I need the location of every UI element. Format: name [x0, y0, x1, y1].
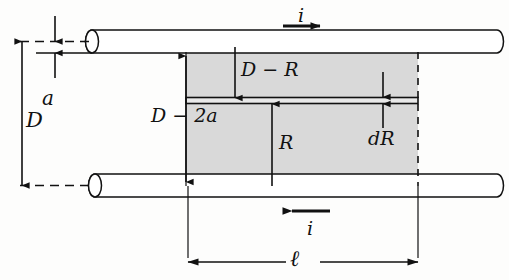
- label-length-ell: ℓ: [290, 248, 299, 270]
- label-distance-from-top: D − R: [241, 60, 299, 79]
- bottom-horizontal-wire: [89, 174, 504, 197]
- label-radius-R: R: [279, 133, 293, 152]
- label-inner-separation: D − 2a: [151, 106, 218, 125]
- dimension-a: [36, 16, 92, 78]
- differential-strip-dR: [186, 98, 418, 104]
- label-separation-D: D: [26, 110, 43, 131]
- label-element-dR: dR: [368, 129, 394, 148]
- wire-pair-inductance-diagram: D a D − 2a D − R R dR i i ℓ: [0, 0, 509, 280]
- top-horizontal-wire: [86, 30, 504, 53]
- label-current-bottom: i: [307, 219, 313, 238]
- diagram-canvas: [0, 0, 509, 280]
- label-current-top: i: [298, 6, 304, 25]
- label-wire-radius-a: a: [42, 88, 54, 108]
